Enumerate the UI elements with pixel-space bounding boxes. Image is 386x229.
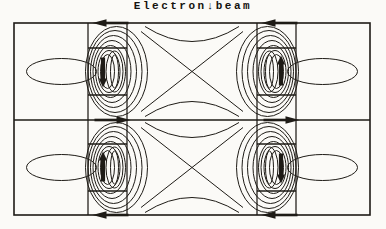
field-cell-upper-right: [237, 27, 358, 117]
saddle-pattern-lower: [141, 123, 243, 213]
figure: Electron↓beam: [0, 0, 386, 229]
field-cell-upper-left: [27, 27, 148, 117]
field-cell-lower-right: [237, 123, 358, 213]
saddle-pattern-upper: [141, 27, 243, 117]
field-line-diagram: [0, 0, 386, 229]
field-cell-lower-left: [27, 123, 148, 213]
current-arrow-top-right-channel: [262, 19, 298, 26]
current-arrow-bottom-left-channel: [93, 211, 129, 218]
current-arrow-top-left-channel: [93, 19, 129, 26]
vacuum-chamber-boundary: [14, 23, 370, 215]
